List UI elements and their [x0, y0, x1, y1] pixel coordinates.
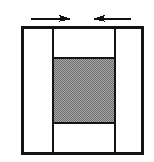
diagram-canvas [0, 0, 154, 162]
right-panel [115, 26, 144, 155]
stippled-core-region [54, 59, 114, 122]
left-panel [21, 26, 53, 155]
compression-load-diagram [0, 0, 154, 162]
